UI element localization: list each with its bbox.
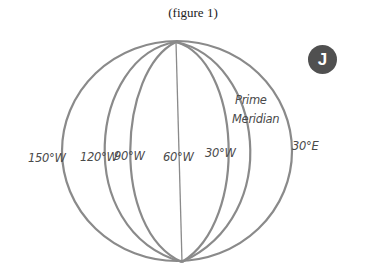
- label-30w: 30°W: [205, 146, 236, 160]
- label-60w: 60°W: [163, 150, 194, 164]
- label-prime-line2: Meridian: [232, 112, 279, 126]
- globe-diagram: 150°W 120°W 90°W 60°W 30°W 30°E Prime Me…: [0, 0, 386, 275]
- answer-badge-j: J: [308, 45, 337, 74]
- label-prime-line1: Prime: [235, 93, 267, 107]
- label-120w: 120°W: [80, 150, 119, 164]
- label-90w: 90°W: [114, 149, 145, 163]
- label-30e: 30°E: [292, 139, 319, 153]
- meridian-label-group: 150°W 120°W 90°W 60°W 30°W 30°E Prime Me…: [28, 93, 319, 165]
- label-150w: 150°W: [28, 151, 67, 165]
